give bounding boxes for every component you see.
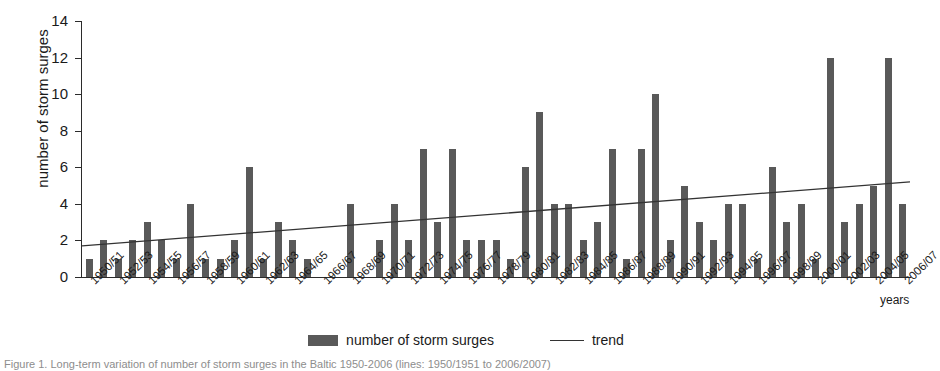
y-axis-tick	[75, 204, 81, 205]
figure-caption: Figure 1. Long-term variation of number …	[4, 358, 930, 370]
y-axis-tick-label: 8	[8, 123, 68, 138]
legend-trend-swatch	[550, 340, 584, 341]
legend-item-trend: trend	[550, 332, 624, 348]
y-axis-tick	[75, 21, 81, 22]
plot-area	[82, 21, 910, 277]
x-axis-title: years	[880, 293, 909, 307]
y-axis-tick	[75, 131, 81, 132]
bar	[536, 112, 543, 277]
chart-legend: number of storm surges trend	[0, 330, 932, 350]
x-axis-labels: 1950/511952/531954/551956/571958/591960/…	[0, 278, 932, 338]
y-axis-tick	[75, 240, 81, 241]
bar	[652, 94, 659, 277]
y-axis-tick	[75, 94, 81, 95]
y-axis-tick-label: 14	[8, 13, 68, 28]
y-axis-tick-label: 6	[8, 159, 68, 174]
bar	[449, 149, 456, 277]
legend-item-bars: number of storm surges	[308, 332, 494, 348]
y-axis-tick-label: 10	[8, 86, 68, 101]
y-axis-tick	[75, 167, 81, 168]
y-axis-tick-label: 12	[8, 50, 68, 65]
y-axis-title: number of storm surges	[34, 0, 51, 229]
bar	[885, 58, 892, 277]
y-axis-tick-label: 2	[8, 232, 68, 247]
legend-bar-label: number of storm surges	[346, 332, 494, 348]
y-axis-tick	[75, 58, 81, 59]
legend-trend-label: trend	[592, 332, 624, 348]
bar	[827, 58, 834, 277]
legend-bar-swatch	[308, 335, 338, 346]
bar	[420, 149, 427, 277]
y-axis-tick-label: 4	[8, 196, 68, 211]
